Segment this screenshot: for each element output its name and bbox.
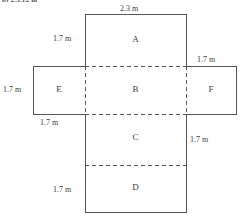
- edge-e-top: [33, 66, 86, 67]
- face-a-label: A: [85, 34, 186, 44]
- fold-line-e-b: [85, 66, 86, 115]
- edge-f-right: [236, 66, 237, 115]
- fold-line-b-c: [85, 114, 187, 115]
- dimension-f-width: 1.7 m: [197, 55, 215, 64]
- face-e-label: E: [33, 84, 85, 94]
- edge-d-bottom: [85, 212, 187, 213]
- edge-a-right: [186, 14, 187, 67]
- face-b-label: B: [85, 84, 186, 94]
- face-c: C: [85, 114, 186, 165]
- face-f: F: [186, 66, 236, 114]
- header-fragment-text: b) 2.5.12 m: [2, 0, 37, 2]
- dimension-d-height: 1.7 m: [53, 185, 71, 194]
- dimension-c-height: 1.7 m: [190, 135, 208, 144]
- face-a: A: [85, 14, 186, 66]
- edge-a-top: [85, 14, 187, 15]
- edge-e-bottom: [33, 114, 86, 115]
- fold-line-b-f: [186, 66, 187, 115]
- edge-a-left: [85, 14, 86, 67]
- edge-f-top: [186, 66, 237, 67]
- face-e: E: [33, 66, 85, 114]
- face-f-label: F: [186, 84, 236, 94]
- face-c-label: C: [85, 132, 186, 142]
- dimension-top-width: 2.3 m: [120, 4, 138, 13]
- dimension-e-height: 1.7 m: [3, 85, 21, 94]
- face-d-label: D: [85, 182, 186, 192]
- dimension-e-width: 1.7 m: [40, 118, 58, 127]
- edge-e-left: [33, 66, 34, 115]
- dimension-a-height: 1.7 m: [53, 34, 71, 43]
- diagram-canvas: b) 2.5.12 m A B C D E F: [0, 0, 242, 221]
- edge-cd-left: [85, 114, 86, 212]
- fold-line-c-d: [85, 165, 187, 166]
- edge-cd-right: [186, 114, 187, 212]
- face-d: D: [85, 165, 186, 212]
- face-b: B: [85, 66, 186, 114]
- edge-f-bottom: [186, 114, 237, 115]
- fold-line-a-b: [85, 66, 187, 67]
